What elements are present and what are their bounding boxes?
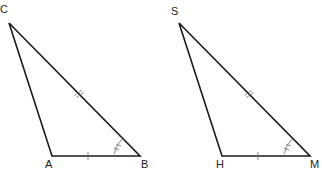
triangle-hms-marks: [245, 90, 292, 160]
diagram-canvas: [0, 0, 322, 176]
angle-m-arc: [284, 139, 292, 154]
angle-m-tick1: [284, 148, 289, 150]
triangle-hms: [179, 23, 310, 156]
angle-b-arc: [114, 139, 122, 154]
triangle-abc: [9, 23, 140, 156]
vertex-label-s: S: [171, 6, 178, 17]
triangle-abc-marks: [75, 90, 122, 160]
vertex-label-b: B: [141, 159, 148, 170]
vertex-label-c: C: [0, 4, 8, 15]
angle-b-tick1: [114, 148, 119, 150]
vertex-label-h: H: [216, 159, 224, 170]
vertex-label-a: A: [45, 159, 52, 170]
vertex-label-m: M: [310, 159, 319, 170]
